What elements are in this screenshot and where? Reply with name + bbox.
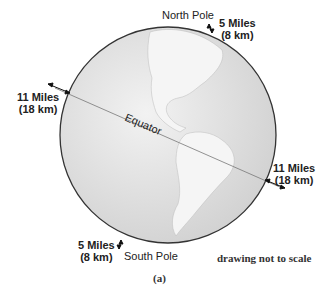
- north-thickness-km: (8 km): [219, 29, 256, 41]
- west-equator-miles: 11 Miles: [17, 91, 59, 103]
- east-equator-miles: 11 Miles: [273, 162, 315, 174]
- south-thickness-km: (8 km): [78, 251, 115, 263]
- figure-caption: (a): [153, 272, 166, 284]
- east-equator-km: (18 km): [273, 174, 315, 186]
- south-thickness-miles: 5 Miles: [78, 239, 115, 251]
- north-thickness-label: 5 Miles (8 km): [219, 17, 256, 41]
- south-thickness-label: 5 Miles (8 km): [78, 239, 115, 263]
- not-to-scale-note: drawing not to scale: [217, 252, 311, 264]
- west-equator-thickness-label: 11 Miles (18 km): [17, 91, 59, 115]
- north-thickness-miles: 5 Miles: [219, 17, 256, 29]
- north-pole-label: North Pole: [162, 9, 214, 21]
- south-pole-label: South Pole: [124, 250, 178, 262]
- east-equator-thickness-label: 11 Miles (18 km): [273, 162, 315, 186]
- west-equator-km: (18 km): [17, 103, 59, 115]
- globe-diagram: [0, 0, 331, 292]
